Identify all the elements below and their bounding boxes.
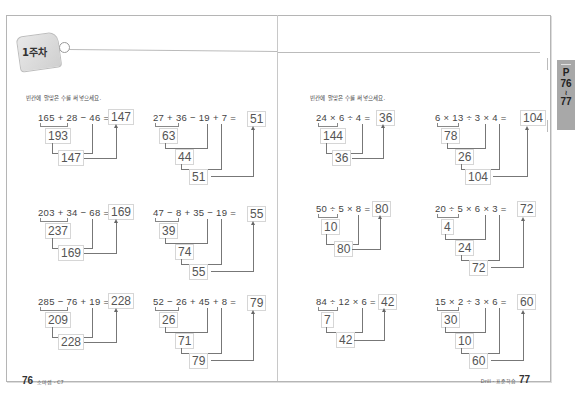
- step-box[interactable]: 10: [321, 219, 340, 235]
- connector: [491, 267, 523, 268]
- expression: 203 + 34 − 68 =: [38, 207, 109, 218]
- step-box[interactable]: 42: [336, 332, 355, 348]
- tab-start: 76: [557, 78, 575, 89]
- step-box[interactable]: 104: [465, 169, 491, 185]
- problem-right-4: 20 ÷ 5 × 6 × 3 = 72 4 24 72: [435, 203, 555, 283]
- step-box[interactable]: 169: [58, 245, 84, 261]
- step-box[interactable]: 55: [189, 264, 208, 280]
- connector: [207, 308, 208, 333]
- connector: [221, 308, 222, 354]
- connector: [352, 249, 380, 250]
- step-box[interactable]: 4: [441, 219, 454, 235]
- arrow-up-icon: [378, 215, 382, 219]
- connector: [52, 238, 53, 248]
- connector: [485, 215, 486, 240]
- connector: [253, 223, 254, 272]
- arrow-up-icon: [381, 124, 385, 128]
- step-box[interactable]: 39: [159, 223, 178, 239]
- expression: 165 + 28 − 46 =: [38, 112, 109, 123]
- step-box[interactable]: 147: [58, 150, 84, 166]
- answer-box[interactable]: 228: [108, 293, 134, 309]
- step-box[interactable]: 79: [189, 353, 208, 369]
- step-box[interactable]: 209: [45, 312, 71, 328]
- page-gutter: [277, 15, 278, 381]
- step-box[interactable]: 193: [45, 128, 71, 144]
- connector: [485, 124, 486, 149]
- answer-box[interactable]: 72: [517, 201, 536, 217]
- arrow-up-icon: [251, 310, 255, 314]
- step-box[interactable]: 72: [469, 260, 488, 276]
- connector: [326, 234, 327, 244]
- bracket: [40, 218, 68, 222]
- connector: [523, 312, 524, 361]
- answer-box[interactable]: 147: [108, 109, 134, 125]
- step-box[interactable]: 60: [469, 353, 488, 369]
- answer-box[interactable]: 42: [378, 294, 397, 310]
- step-box[interactable]: 237: [45, 223, 71, 239]
- problem-right-6: 15 × 2 ÷ 3 × 6 = 60 30 10 60: [435, 296, 555, 376]
- left-instruction: 빈칸에 알맞은 수를 써넣으세요.: [26, 94, 101, 102]
- step-box[interactable]: 51: [189, 169, 208, 185]
- step-box[interactable]: 7: [321, 312, 334, 328]
- step-box[interactable]: 71: [175, 333, 194, 349]
- connector: [527, 128, 528, 177]
- problem-left-3: 203 + 34 − 68 = 169 237 169: [38, 207, 158, 287]
- answer-box[interactable]: 104: [520, 110, 546, 126]
- connector: [499, 308, 500, 354]
- bracket: [155, 123, 179, 127]
- ring-icon: [59, 42, 70, 53]
- problem-left-1: 165 + 28 − 46 = 147 193 147: [38, 112, 158, 192]
- bracket: [40, 307, 68, 311]
- step-box[interactable]: 63: [159, 128, 178, 144]
- arrow-up-icon: [521, 310, 525, 314]
- step-box[interactable]: 74: [175, 244, 194, 260]
- connector: [499, 215, 500, 261]
- answer-box[interactable]: 55: [247, 206, 266, 222]
- step-box[interactable]: 144: [320, 128, 346, 144]
- step-box[interactable]: 10: [455, 333, 474, 349]
- answer-box[interactable]: 79: [247, 295, 266, 311]
- bracket: [40, 123, 68, 127]
- problem-right-3: 50 ÷ 5 × 8 = 80 10 80: [316, 203, 436, 283]
- connector: [92, 219, 93, 249]
- problem-right-5: 84 ÷ 12 × 6 = 42 7 42: [316, 296, 436, 376]
- bracket: [318, 307, 338, 311]
- connector: [92, 124, 93, 154]
- week-badge: 1주차: [14, 28, 68, 76]
- step-box[interactable]: 78: [441, 128, 460, 144]
- connector: [380, 217, 381, 250]
- bracket: [318, 123, 338, 127]
- expression: 50 ÷ 5 × 8 =: [316, 203, 370, 214]
- answer-box[interactable]: 36: [376, 110, 395, 126]
- step-box[interactable]: 44: [175, 149, 194, 165]
- arrow-up-icon: [114, 124, 118, 128]
- side-mark-bottom: [547, 120, 548, 132]
- answer-box[interactable]: 169: [108, 204, 134, 220]
- bracket: [318, 214, 338, 218]
- expression: 20 ÷ 5 × 6 × 3 =: [435, 203, 507, 214]
- connector: [221, 124, 222, 170]
- expression: 47 − 8 + 35 − 19 =: [153, 207, 236, 218]
- connector: [52, 327, 53, 337]
- expression: 15 × 2 ÷ 3 × 6 =: [435, 296, 507, 307]
- step-box[interactable]: 24: [455, 240, 474, 256]
- arrow-up-icon: [251, 126, 255, 130]
- step-box[interactable]: 26: [455, 149, 474, 165]
- right-footer: Drill - 표준학습77: [481, 374, 530, 385]
- connector: [253, 312, 254, 361]
- side-mark-top: [547, 58, 548, 70]
- connector: [84, 158, 116, 159]
- step-box[interactable]: 228: [58, 334, 84, 350]
- step-box[interactable]: 26: [159, 312, 178, 328]
- step-box[interactable]: 30: [441, 312, 460, 328]
- tab-end: 77: [557, 96, 575, 107]
- connector: [221, 219, 222, 265]
- connector: [253, 128, 254, 177]
- connector: [491, 360, 523, 361]
- arrow-up-icon: [525, 126, 529, 130]
- answer-box[interactable]: 51: [247, 111, 266, 127]
- answer-box[interactable]: 60: [517, 294, 536, 310]
- step-box[interactable]: 80: [334, 241, 353, 257]
- connector: [116, 221, 117, 254]
- step-box[interactable]: 36: [332, 150, 351, 166]
